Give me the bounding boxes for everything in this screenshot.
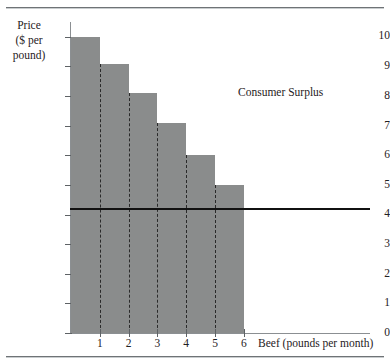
y-tick-label-6: 6 [328,149,390,161]
bar-5 [186,155,215,333]
y-tick-0 [65,333,72,334]
y-axis-title-line-3: pound) [2,48,56,63]
x-tick-1 [100,329,101,337]
divider-dashed-2 [129,93,130,333]
x-tick-label-1: 1 [90,337,110,350]
y-tick-label-9: 9 [328,60,390,72]
price-reference-line [70,208,370,210]
x-axis-title: Beef (pounds per month) [258,337,373,350]
x-axis-line [70,333,370,334]
bar-1 [71,37,100,333]
x-tick-label-2: 2 [119,337,139,350]
x-tick-4 [186,329,187,337]
y-tick-label-8: 8 [328,90,390,102]
x-tick-6 [244,329,245,337]
divider-dashed-1 [100,64,101,333]
plot-area: Price ($ per pound) 0 1 2 3 4 5 6 7 8 9 … [0,0,390,364]
y-axis-title-line-1: Price [2,18,56,33]
divider-dashed-3 [157,123,158,333]
x-tick-label-3: 3 [147,337,167,350]
x-tick-label-5: 5 [205,337,225,350]
y-axis-title: Price ($ per pound) [2,18,56,63]
x-tick-label-6: 6 [234,337,254,350]
x-tick-label-4: 4 [176,337,196,350]
bar-4 [157,123,186,333]
x-tick-3 [157,329,158,337]
bar-2 [100,64,129,333]
y-tick-label-7: 7 [328,120,390,132]
divider-dashed-4 [186,155,187,333]
y-tick-label-2: 2 [328,268,390,280]
y-tick-label-1: 1 [328,297,390,309]
y-tick-label-3: 3 [328,238,390,250]
consumer-surplus-annotation: Consumer Surplus [238,86,323,99]
x-tick-5 [215,329,216,337]
y-tick-label-10: 10 [328,30,390,42]
x-tick-2 [129,329,130,337]
y-tick-label-5: 5 [328,179,390,191]
y-axis-title-line-2: ($ per [2,33,56,48]
figure-consumer-surplus: Price ($ per pound) 0 1 2 3 4 5 6 7 8 9 … [0,0,390,364]
bar-3 [129,93,158,333]
